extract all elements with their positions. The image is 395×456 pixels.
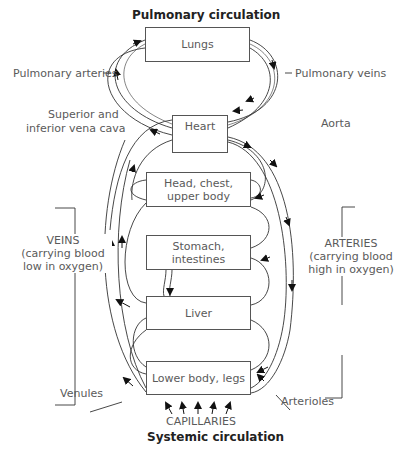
arteries-label-line-3: high in oxygen)	[308, 263, 394, 276]
arteries-label-line-1: ARTERIES	[308, 237, 394, 250]
veins-label-line-1: VEINS	[14, 234, 112, 247]
pulmonary-veins-label: Pulmonary veins	[295, 67, 386, 80]
veins-label-line-3: low in oxygen)	[14, 260, 112, 273]
head-chest-box: Head, chest, upper body	[146, 172, 251, 207]
stomach-box: Stomach, intestines	[146, 235, 251, 270]
vena-cava-label-1: Superior and	[48, 108, 119, 121]
systemic-circulation-title: Systemic circulation	[147, 430, 284, 444]
veins-label-line-2: (carrying blood	[14, 247, 112, 260]
arteries-label-line-2: (carrying blood	[308, 250, 394, 263]
aorta-label: Aorta	[321, 117, 351, 130]
liver-box: Liver	[146, 296, 251, 330]
lower-body-box: Lower body, legs	[146, 361, 251, 395]
veins-label: VEINS (carrying blood low in oxygen)	[14, 234, 112, 273]
venules-label: Venules	[60, 387, 103, 400]
pulmonary-arteries-label: Pulmonary arteries	[13, 67, 118, 80]
capillaries-label: CAPILLARIES	[166, 415, 236, 428]
vena-cava-label-2: inferior vena cava	[26, 122, 126, 135]
heart-box: Heart	[172, 115, 228, 153]
arteries-label: ARTERIES (carrying blood high in oxygen)	[308, 237, 394, 276]
arterioles-label: Arterioles	[281, 395, 334, 408]
lungs-box: Lungs	[145, 27, 250, 62]
pulmonary-circulation-title: Pulmonary circulation	[132, 8, 280, 22]
